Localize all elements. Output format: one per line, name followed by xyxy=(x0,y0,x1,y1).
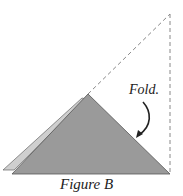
fold-annotation: Fold. xyxy=(129,82,159,98)
figure-caption: Figure B xyxy=(60,176,113,193)
fold-arrow xyxy=(139,102,149,135)
arrowhead-icon xyxy=(136,130,143,138)
fold-diagram xyxy=(0,0,183,196)
